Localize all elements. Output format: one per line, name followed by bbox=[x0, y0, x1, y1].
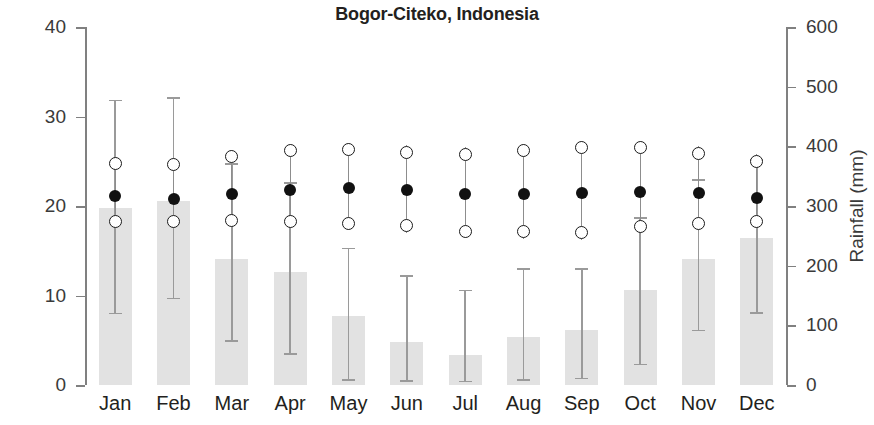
max-temperature-marker bbox=[692, 147, 705, 160]
rainfall-error-cap bbox=[459, 290, 472, 292]
x-axis-label-sep: Sep bbox=[553, 392, 611, 415]
min-temperature-marker bbox=[459, 225, 472, 238]
x-axis-label-aug: Aug bbox=[494, 392, 552, 415]
y-tick-right bbox=[787, 325, 796, 327]
rainfall-error-cap bbox=[225, 340, 238, 342]
rainfall-error-bar bbox=[464, 290, 466, 381]
min-temperature-marker bbox=[225, 214, 238, 227]
rainfall-error-bar bbox=[581, 268, 583, 378]
x-axis-label-feb: Feb bbox=[144, 392, 202, 415]
max-temperature-marker bbox=[634, 141, 647, 154]
mean-temperature-marker bbox=[168, 193, 180, 205]
max-temperature-marker bbox=[459, 148, 472, 161]
min-temperature-marker bbox=[750, 215, 763, 228]
y-tick-right bbox=[787, 27, 796, 29]
mean-temperature-marker bbox=[576, 187, 588, 199]
rainfall-error-cap bbox=[634, 364, 647, 366]
y-tick-right bbox=[787, 385, 796, 387]
y-tick-left bbox=[76, 117, 85, 119]
y-tick-label-left: 40 bbox=[45, 16, 66, 38]
y-tick-label-right: 600 bbox=[806, 16, 838, 38]
max-temperature-marker bbox=[575, 141, 588, 154]
rainfall-error-cap bbox=[575, 268, 588, 270]
rainfall-error-cap bbox=[692, 330, 705, 332]
rainfall-error-cap bbox=[109, 100, 122, 102]
rainfall-error-bar bbox=[639, 217, 641, 363]
min-temperature-marker bbox=[634, 220, 647, 233]
min-temperature-marker bbox=[109, 215, 122, 228]
mean-temperature-marker bbox=[751, 192, 763, 204]
y-tick-label-right: 0 bbox=[806, 374, 817, 396]
mean-temperature-marker bbox=[226, 188, 238, 200]
max-temperature-marker bbox=[167, 158, 180, 171]
rainfall-error-cap bbox=[342, 379, 355, 381]
x-axis-label-nov: Nov bbox=[669, 392, 727, 415]
y-tick-right bbox=[787, 266, 796, 268]
min-temperature-marker bbox=[517, 225, 530, 238]
y-tick-left bbox=[76, 296, 85, 298]
rainfall-error-cap bbox=[575, 378, 588, 380]
mean-temperature-marker bbox=[343, 182, 355, 194]
climate-chart: Bogor-Citeko, Indonesia Temperature (°C)… bbox=[0, 0, 874, 425]
mean-temperature-marker bbox=[401, 184, 413, 196]
min-temperature-marker bbox=[692, 217, 705, 230]
rainfall-error-cap bbox=[459, 381, 472, 383]
max-temperature-marker bbox=[400, 146, 413, 159]
rainfall-error-cap bbox=[167, 97, 180, 99]
rainfall-error-cap bbox=[342, 248, 355, 250]
mean-temperature-marker bbox=[459, 188, 471, 200]
x-axis-label-apr: Apr bbox=[261, 392, 319, 415]
y-tick-left bbox=[76, 27, 85, 29]
mean-temperature-marker bbox=[284, 184, 296, 196]
y-tick-right bbox=[787, 146, 796, 148]
y-tick-label-right: 200 bbox=[806, 255, 838, 277]
y-tick-label-right: 500 bbox=[806, 76, 838, 98]
x-axis-label-jul: Jul bbox=[436, 392, 494, 415]
rainfall-error-cap bbox=[284, 353, 297, 355]
rainfall-error-cap bbox=[517, 379, 530, 381]
max-temperature-marker bbox=[750, 155, 763, 168]
rainfall-error-cap bbox=[400, 275, 413, 277]
y-tick-label-left: 20 bbox=[45, 195, 66, 217]
y-tick-label-left: 0 bbox=[55, 374, 66, 396]
y-tick-label-right: 400 bbox=[806, 135, 838, 157]
max-temperature-marker bbox=[225, 150, 238, 163]
y-tick-label-right: 300 bbox=[806, 195, 838, 217]
y-tick-label-right: 100 bbox=[806, 314, 838, 336]
min-temperature-marker bbox=[284, 215, 297, 228]
y-axis-right-label: Rainfall (mm) bbox=[846, 150, 868, 263]
mean-temperature-marker bbox=[109, 190, 121, 202]
rainfall-error-bar bbox=[406, 275, 408, 380]
max-temperature-marker bbox=[517, 144, 530, 157]
x-axis-label-jun: Jun bbox=[378, 392, 436, 415]
y-tick-left bbox=[76, 385, 85, 387]
y-axis-left-line bbox=[85, 27, 87, 385]
y-tick-label-left: 10 bbox=[45, 285, 66, 307]
min-temperature-marker bbox=[575, 226, 588, 239]
mean-temperature-marker bbox=[634, 186, 646, 198]
min-temperature-marker bbox=[167, 215, 180, 228]
y-tick-left bbox=[76, 206, 85, 208]
rainfall-error-cap bbox=[167, 298, 180, 300]
x-axis-label-mar: Mar bbox=[203, 392, 261, 415]
y-tick-label-left: 30 bbox=[45, 106, 66, 128]
rainfall-error-bar bbox=[523, 268, 525, 379]
rainfall-error-bar bbox=[348, 248, 350, 379]
rainfall-error-cap bbox=[400, 380, 413, 382]
rainfall-error-cap bbox=[109, 313, 122, 315]
max-temperature-marker bbox=[284, 144, 297, 157]
x-axis-label-jan: Jan bbox=[86, 392, 144, 415]
y-tick-right bbox=[787, 87, 796, 89]
x-axis-label-dec: Dec bbox=[728, 392, 786, 415]
plot-area: 010203040 0100200300400500600 bbox=[86, 27, 786, 385]
min-temperature-marker bbox=[342, 217, 355, 230]
chart-title: Bogor-Citeko, Indonesia bbox=[0, 4, 874, 25]
y-tick-right bbox=[787, 206, 796, 208]
mean-temperature-marker bbox=[518, 188, 530, 200]
rainfall-error-cap bbox=[517, 268, 530, 270]
max-temperature-marker bbox=[342, 143, 355, 156]
x-axis-label-oct: Oct bbox=[611, 392, 669, 415]
mean-temperature-marker bbox=[693, 187, 705, 199]
x-axis-label-may: May bbox=[319, 392, 377, 415]
max-temperature-marker bbox=[109, 157, 122, 170]
